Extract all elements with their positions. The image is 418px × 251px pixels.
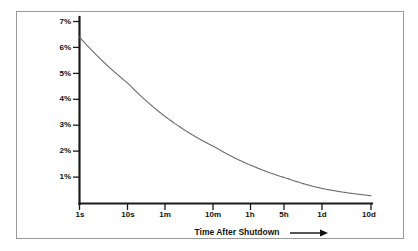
y-tick-label: 1% (59, 172, 71, 181)
y-tick-label: 4% (59, 94, 71, 103)
chart-plot-svg: 7% 6% 5% 4% 3% 2% 1% 1s 10s 1m 10m 1h 5h (0, 0, 418, 251)
x-axis-title: Time After Shutdown (195, 227, 280, 237)
x-tick-label: 1m (159, 210, 171, 219)
decay-heat-curve (80, 37, 372, 196)
x-tick-label: 10s (121, 210, 135, 219)
y-tick-label: 2% (59, 146, 71, 155)
chart-figure: 7% 6% 5% 4% 3% 2% 1% 1s 10s 1m 10m 1h 5h (0, 0, 418, 251)
y-tick-label: 5% (59, 69, 71, 78)
x-tick-label: 1h (245, 210, 254, 219)
x-tick-label: 5h (279, 210, 288, 219)
y-tick-label: 3% (59, 120, 71, 129)
y-tick-label: 7% (59, 17, 71, 26)
y-axis-tick-labels: 7% 6% 5% 4% 3% 2% 1% (59, 17, 71, 182)
x-tick-label: 10d (362, 210, 376, 219)
x-tick-label: 10m (205, 210, 221, 219)
y-tick-label: 6% (59, 43, 71, 52)
x-axis-title-arrow-icon (290, 230, 328, 237)
x-axis-tick-labels: 1s 10s 1m 10m 1h 5h 1d 10d (76, 210, 376, 219)
x-tick-label: 1s (76, 210, 85, 219)
x-tick-label: 1d (317, 210, 326, 219)
